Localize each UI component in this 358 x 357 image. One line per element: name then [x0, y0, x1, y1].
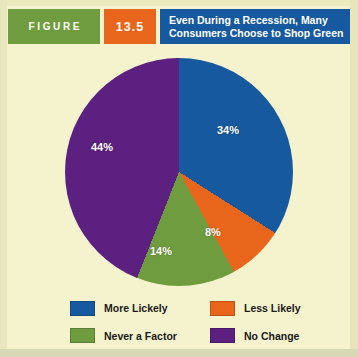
legend-item-less-likely: Less Likely [210, 296, 350, 321]
legend-item-more-lickely: More Lickely [70, 296, 210, 321]
pie-label-less-likely: 8% [205, 226, 221, 238]
page-edge-left [0, 0, 7, 357]
chart-legend: More Lickely Less Likely Never a Factor … [8, 296, 350, 348]
pie-label-more-lickely: 34% [217, 124, 239, 136]
page-edge-right [350, 0, 358, 357]
figure-title-banner: Even During a Recession, Many Consumers … [160, 9, 350, 44]
legend-label-more-lickely: More Lickely [104, 302, 168, 314]
figure-title-line-2: Consumers Choose to Shop Green [169, 27, 346, 40]
legend-label-no-change: No Change [244, 330, 299, 342]
chart-area: 34% 8% 14% 44% [8, 50, 350, 293]
legend-swatch-purple [210, 328, 235, 343]
legend-label-less-likely: Less Likely [244, 302, 301, 314]
pie-label-no-change: 44% [91, 141, 113, 153]
legend-label-never-a-factor: Never a Factor [104, 330, 177, 342]
page-edge-bottom [0, 349, 358, 357]
legend-item-no-change: No Change [210, 324, 350, 349]
legend-swatch-orange [210, 301, 235, 316]
figure-card: FIGURE 13.5 Even During a Recession, Man… [0, 0, 358, 357]
legend-swatch-blue [70, 301, 95, 316]
figure-word-badge: FIGURE [8, 9, 100, 44]
pie-disc [65, 58, 293, 286]
legend-swatch-green [70, 328, 95, 343]
figure-header: FIGURE 13.5 Even During a Recession, Man… [8, 9, 350, 44]
legend-item-never-a-factor: Never a Factor [70, 324, 210, 349]
figure-number-badge: 13.5 [104, 9, 156, 44]
page-edge-top [0, 0, 358, 6]
pie-label-never-a-factor: 14% [150, 245, 172, 257]
figure-title-line-1: Even During a Recession, Many [169, 14, 346, 27]
pie-chart: 34% 8% 14% 44% [65, 58, 293, 286]
